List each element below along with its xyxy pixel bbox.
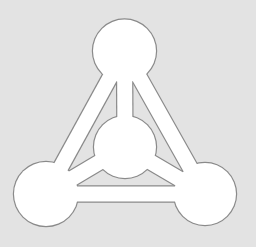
fill-node-top	[93, 20, 156, 83]
network-graph-icon	[0, 0, 256, 247]
network-graph-logo	[0, 0, 256, 247]
fill-layer	[14, 20, 236, 227]
fill-node-bottom-left	[14, 162, 78, 226]
fill-node-bottom-right	[174, 163, 236, 225]
fill-node-center	[94, 116, 156, 178]
